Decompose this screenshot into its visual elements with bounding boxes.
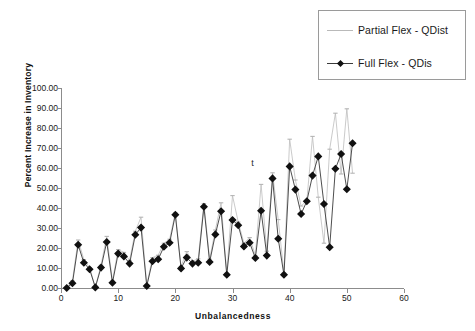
legend-label-partial: Partial Flex - QDist bbox=[358, 24, 448, 36]
legend-line-marker-icon-full bbox=[327, 58, 353, 68]
data-point-marker bbox=[92, 284, 98, 290]
chart-series-full-flex bbox=[64, 140, 356, 291]
data-point-marker bbox=[315, 153, 321, 159]
x-axis-title: Unbalancedness bbox=[62, 311, 404, 321]
data-point-marker bbox=[304, 198, 310, 204]
chart-container: Percent Increase in Inventory 0.0010.002… bbox=[0, 0, 475, 331]
data-point-marker bbox=[264, 253, 270, 259]
data-point-marker bbox=[195, 260, 201, 266]
data-point-marker bbox=[212, 231, 218, 237]
data-point-marker bbox=[161, 244, 167, 250]
data-point-marker bbox=[207, 259, 213, 265]
data-point-marker bbox=[270, 175, 276, 181]
chart-legend: Partial Flex - QDist Full Flex - QDis bbox=[318, 10, 466, 80]
data-point-marker bbox=[104, 239, 110, 245]
legend-label-full: Full Flex - QDis bbox=[358, 57, 432, 69]
data-point-marker bbox=[201, 204, 207, 210]
data-point-marker bbox=[332, 166, 338, 172]
legend-item-partial-flex[interactable]: Partial Flex - QDist bbox=[327, 24, 448, 36]
data-point-marker bbox=[310, 173, 316, 179]
plot-annotation-label: t bbox=[251, 158, 254, 168]
data-point-marker bbox=[115, 251, 121, 257]
data-point-marker bbox=[344, 186, 350, 192]
data-point-marker bbox=[287, 163, 293, 169]
data-point-marker bbox=[241, 243, 247, 249]
data-point-marker bbox=[144, 283, 150, 289]
legend-line-icon-partial bbox=[327, 25, 353, 35]
data-point-marker bbox=[292, 187, 298, 193]
data-point-marker bbox=[327, 244, 333, 250]
data-point-marker bbox=[298, 211, 304, 217]
legend-item-full-flex[interactable]: Full Flex - QDis bbox=[327, 57, 432, 69]
